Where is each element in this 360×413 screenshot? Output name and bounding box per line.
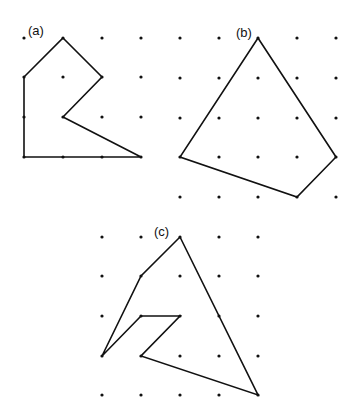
grid-dot	[295, 116, 298, 119]
grid-dot	[334, 76, 337, 79]
figure-label-a: (a)	[28, 23, 44, 38]
grid-dot	[295, 155, 298, 158]
grid-dot	[334, 195, 337, 198]
grid-dot	[100, 36, 103, 39]
grid-dot	[256, 235, 259, 238]
dot-grid-polygons-diagram: (a) (b) (c)	[0, 0, 360, 413]
grid-dot	[178, 274, 181, 277]
grid-dot	[217, 195, 220, 198]
grid-dot	[217, 76, 220, 79]
grid-dot	[178, 354, 181, 357]
grid-dot	[178, 76, 181, 79]
grid-dot	[100, 393, 103, 396]
grid-dot	[178, 393, 181, 396]
grid-dot	[178, 195, 181, 198]
grid-dot	[178, 116, 181, 119]
grid-dot	[217, 155, 220, 158]
grid-dot	[334, 36, 337, 39]
figure-c: (c)	[100, 224, 259, 397]
grid-dot	[100, 314, 103, 317]
polygon-a	[24, 38, 141, 157]
grid-dot	[217, 354, 220, 357]
grid-dot	[256, 155, 259, 158]
grid-dot	[217, 393, 220, 396]
grid-dot	[139, 393, 142, 396]
grid-dot	[100, 274, 103, 277]
figure-a: (a)	[22, 23, 142, 159]
grid-dot	[61, 75, 64, 78]
dot-grid-b	[178, 36, 337, 198]
grid-dot	[256, 116, 259, 119]
figure-label-b: (b)	[236, 25, 252, 40]
grid-dot	[217, 274, 220, 277]
grid-dot	[256, 195, 259, 198]
grid-dot	[22, 36, 25, 39]
grid-dot	[256, 76, 259, 79]
figure-label-c: (c)	[154, 224, 169, 239]
grid-dot	[178, 36, 181, 39]
grid-dot	[139, 75, 142, 78]
grid-dot	[139, 36, 142, 39]
grid-dot	[217, 235, 220, 238]
grid-dot	[217, 116, 220, 119]
grid-dot	[295, 36, 298, 39]
grid-dot	[256, 354, 259, 357]
figure-b: (b)	[178, 25, 337, 199]
grid-dot	[256, 314, 259, 317]
grid-dot	[256, 274, 259, 277]
grid-dot	[334, 116, 337, 119]
grid-dot	[100, 115, 103, 118]
polygon-c	[102, 237, 258, 395]
grid-dot	[295, 76, 298, 79]
grid-dot	[139, 115, 142, 118]
grid-dot	[100, 235, 103, 238]
grid-dot	[217, 36, 220, 39]
grid-dot	[139, 235, 142, 238]
